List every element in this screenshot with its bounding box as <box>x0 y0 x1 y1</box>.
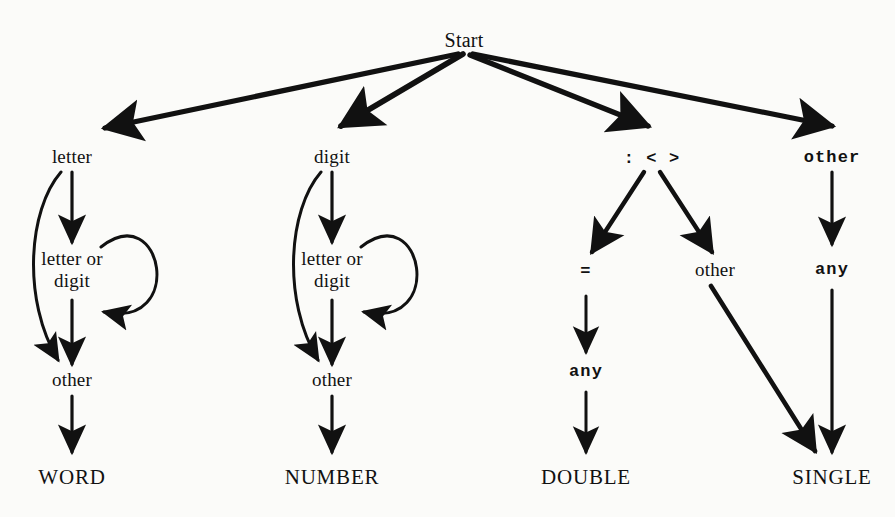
node-other-double-branch: other <box>695 259 735 280</box>
edge-start-to-other-top <box>473 54 832 126</box>
edge-punct-to-other-mid <box>660 172 712 252</box>
node-any-double-branch: any <box>569 362 603 381</box>
edge-lod2-selfloop <box>361 236 417 314</box>
node-punctuation: : < > <box>624 149 681 168</box>
node-letter-or-digit-2: letter or digit <box>301 248 362 292</box>
edge-other-mid-to-single <box>711 286 815 451</box>
terminal-double: DOUBLE <box>541 466 631 490</box>
terminal-single: SINGLE <box>792 466 871 490</box>
edge-lod1-selfloop <box>101 236 157 314</box>
edge-punct-to-equals <box>592 172 644 252</box>
node-other-number-branch: other <box>312 369 352 390</box>
node-any-single-branch: any <box>815 260 849 279</box>
edges-layer <box>0 0 895 517</box>
node-start: Start <box>445 29 484 51</box>
node-other-single-branch: other <box>804 148 861 167</box>
node-digit: digit <box>314 146 350 167</box>
node-letter: letter <box>52 146 92 167</box>
terminal-number: NUMBER <box>285 466 380 490</box>
node-letter-or-digit-1: letter or digit <box>41 248 102 292</box>
start-fanout-edges <box>105 54 832 128</box>
column-number-edges <box>294 172 417 452</box>
column-double-edges <box>586 172 815 452</box>
node-other-word-branch: other <box>52 369 92 390</box>
state-diagram: Start letter letter or digit other WORD … <box>0 0 895 517</box>
terminal-word: WORD <box>38 466 105 490</box>
column-word-edges <box>34 172 157 452</box>
edge-start-to-punct <box>470 55 648 126</box>
node-equals: = <box>580 262 591 281</box>
